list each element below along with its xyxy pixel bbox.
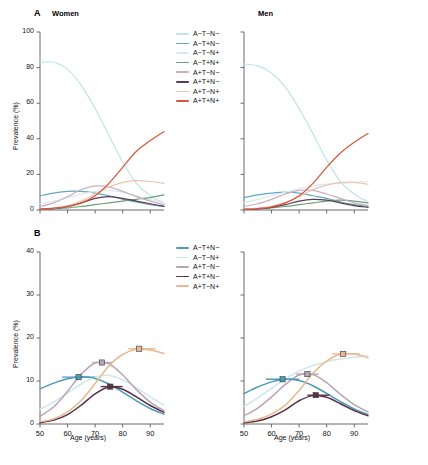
y-tick-label: 0 — [10, 205, 34, 212]
legend-item-label: A−T+N+ — [193, 59, 219, 66]
legend-item[interactable]: A+T+N− — [176, 272, 219, 282]
x-axis-title: Age (years) — [70, 434, 106, 441]
y-tick-label: 80 — [10, 63, 34, 70]
legend-item-label: A+T−N− — [193, 263, 219, 270]
y-tick-label: 20 — [10, 169, 34, 176]
peak-marker — [305, 372, 310, 377]
legend-color-swatch — [176, 43, 189, 45]
curve-A+TN+ — [244, 353, 368, 421]
legend-item-label: A+T+N+ — [193, 97, 219, 104]
y-tick-label: 30 — [10, 290, 34, 297]
legend-item[interactable]: A+T+N+ — [176, 96, 219, 106]
legend-item-label: A−T−N+ — [193, 49, 219, 56]
legend-color-swatch — [176, 71, 189, 73]
x-tick-label: 80 — [113, 429, 133, 438]
plot-panel-b-men — [244, 252, 370, 426]
legend-item-label: A+T+N− — [193, 78, 219, 85]
plot-panel-a-women — [40, 32, 166, 212]
x-tick-label: 90 — [344, 429, 364, 438]
legend-item[interactable]: A−T−N+ — [176, 253, 219, 263]
y-axis-title: Prevalence (%) — [12, 102, 19, 150]
panel-letter-b: B — [34, 228, 41, 238]
legend-item-label: A+T−N+ — [193, 88, 219, 95]
legend-item-label: A+T+N− — [193, 273, 219, 280]
x-axis-title: Age (years) — [274, 434, 310, 441]
legend-item-label: A−T+N− — [193, 40, 219, 47]
legend-color-swatch — [176, 257, 189, 259]
legend-item[interactable]: A−T+N+ — [176, 58, 219, 68]
legend-panel-b: A−T+N−A−T−N+A+T−N−A+T+N−A+T−N+ — [176, 243, 219, 291]
legend-color-swatch — [176, 33, 189, 35]
legend-item[interactable]: A−T+N− — [176, 243, 219, 253]
curve-ATN — [40, 62, 164, 203]
x-tick-label: 50 — [234, 429, 254, 438]
legend-color-swatch — [176, 285, 189, 287]
legend-color-swatch — [176, 62, 189, 64]
legend-color-swatch — [176, 52, 189, 54]
legend-item[interactable]: A+T−N+ — [176, 281, 219, 291]
peak-marker — [108, 384, 113, 389]
legend-item-label: A+T−N− — [193, 69, 219, 76]
panel-letter-a: A — [34, 8, 41, 18]
peak-marker — [137, 346, 142, 351]
peak-marker — [280, 377, 285, 382]
y-tick-label: 100 — [10, 27, 34, 34]
legend-color-swatch — [176, 91, 189, 93]
legend-item[interactable]: A−T−N+ — [176, 48, 219, 58]
legend-color-swatch — [176, 276, 189, 278]
panel-title-men: Men — [258, 9, 273, 18]
y-axis-title: Prevalence (%) — [12, 320, 19, 368]
plot-panel-a-men — [244, 32, 370, 212]
plot-panel-b-women — [40, 252, 166, 426]
curve-A+T+N — [244, 395, 368, 422]
x-tick-label: 90 — [140, 429, 160, 438]
peak-marker — [99, 360, 104, 365]
y-tick-label: 10 — [10, 376, 34, 383]
legend-item[interactable]: A+T−N+ — [176, 87, 219, 97]
panel-title-women: Women — [52, 9, 79, 18]
legend-color-swatch — [176, 247, 189, 249]
peak-marker — [313, 393, 318, 398]
x-tick-label: 50 — [30, 429, 50, 438]
y-tick-label: 40 — [10, 247, 34, 254]
peak-marker — [341, 351, 346, 356]
legend-item[interactable]: A−T+N− — [176, 39, 219, 49]
legend-color-swatch — [176, 266, 189, 268]
curve-AT+N — [40, 377, 164, 414]
legend-color-swatch — [176, 100, 189, 102]
curve-ATN — [244, 64, 368, 202]
legend-panel-a: A−T−N−A−T+N−A−T−N+A−T+N+A+T−N−A+T+N−A+T−… — [176, 29, 219, 106]
x-tick-label: 80 — [317, 429, 337, 438]
legend-item[interactable]: A+T−N− — [176, 67, 219, 77]
legend-color-swatch — [176, 81, 189, 83]
y-tick-label: 0 — [10, 419, 34, 426]
legend-item-label: A−T+N− — [193, 244, 219, 251]
legend-item[interactable]: A−T−N− — [176, 29, 219, 39]
peak-marker — [76, 375, 81, 380]
legend-item[interactable]: A+T+N− — [176, 77, 219, 87]
legend-item-label: A+T−N+ — [193, 283, 219, 290]
legend-item-label: A−T−N+ — [193, 254, 219, 261]
figure-root: AWomenMenB020406080100010203040506070809… — [0, 0, 428, 465]
legend-item-label: A−T−N− — [193, 30, 219, 37]
legend-item[interactable]: A+T−N− — [176, 262, 219, 272]
